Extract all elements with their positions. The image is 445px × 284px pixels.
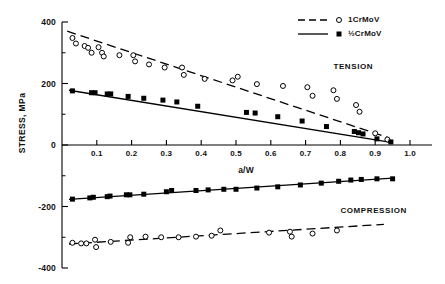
y-axis-tick-label: 0 (22, 140, 56, 150)
x-axis-tick-label: 0.6 (258, 149, 284, 158)
x-axis-tick-label: 0.3 (153, 149, 179, 158)
y-axis-tick-label: 400 (22, 17, 56, 27)
axis-layer (62, 22, 432, 268)
y-axis-tick-label: -200 (22, 202, 56, 212)
annotation-tension: TENSION (333, 62, 373, 71)
legend-layer (298, 18, 342, 37)
annotation-compression: COMPRESSION (340, 206, 407, 215)
x-axis-tick-label: 0.8 (327, 149, 353, 158)
x-axis-tick-label: 0.7 (293, 149, 319, 158)
x-axis-tick-label: 0.4 (188, 149, 214, 158)
y-axis-tick-label: -400 (22, 263, 56, 273)
x-axis-tick-label: 1.0 (397, 149, 423, 158)
x-axis-tick-label: 0.9 (362, 149, 388, 158)
stress-vs-aw-chart (0, 0, 445, 284)
x-axis-tick-label: 0.5 (223, 149, 249, 158)
legend-label-1crmov: 1CrMoV (348, 15, 379, 24)
y-axis-title: STRESS, MPa (17, 83, 27, 163)
legend-label-halfcrmov: ½CrMoV (348, 29, 382, 38)
x-axis-tick-label: 0.2 (119, 149, 145, 158)
x-axis-title: a/W (238, 165, 254, 175)
x-axis-tick-label: 0.1 (84, 149, 110, 158)
y-axis-tick-label: 200 (22, 79, 56, 89)
